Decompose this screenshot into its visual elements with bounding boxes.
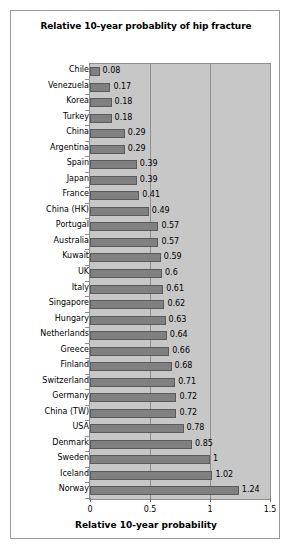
- bar[interactable]: [90, 424, 184, 433]
- bar-row: 0.29: [90, 126, 270, 142]
- bar[interactable]: [90, 222, 158, 231]
- bar-row: 0.18: [90, 95, 270, 111]
- bar-row: 0.78: [90, 421, 270, 437]
- bar[interactable]: [90, 160, 137, 169]
- bar[interactable]: [90, 145, 125, 154]
- category-label: Argentina: [17, 142, 89, 154]
- bar-value-label: 0.85: [195, 438, 213, 450]
- bar-row: 0.64: [90, 328, 270, 344]
- bar[interactable]: [90, 316, 166, 325]
- bar-row: 0.72: [90, 390, 270, 406]
- bar[interactable]: [90, 393, 176, 402]
- bar-row: 0.41: [90, 188, 270, 204]
- bar[interactable]: [90, 455, 210, 464]
- category-label: Portugal: [17, 219, 89, 231]
- bar-value-label: 0.18: [115, 96, 133, 108]
- bar-value-label: 0.17: [113, 81, 131, 93]
- bar-value-label: 0.72: [179, 391, 197, 403]
- bar-value-label: 0.6: [165, 267, 178, 279]
- bar-row: 0.63: [90, 313, 270, 329]
- bar[interactable]: [90, 347, 169, 356]
- bar-value-label: 1.24: [242, 484, 260, 496]
- x-tick-label: 0: [87, 504, 92, 515]
- bar[interactable]: [90, 285, 163, 294]
- category-label: Sweden: [17, 452, 89, 464]
- category-label: Turkey: [17, 111, 89, 123]
- bar[interactable]: [90, 238, 158, 247]
- category-label: China (HK): [17, 204, 89, 216]
- bar[interactable]: [90, 471, 212, 480]
- bar[interactable]: [90, 176, 137, 185]
- bar[interactable]: [90, 409, 176, 418]
- bar[interactable]: [90, 269, 162, 278]
- category-label: Italy: [17, 282, 89, 294]
- category-label: Finland: [17, 359, 89, 371]
- x-axis-tick-labels: 00.511.5: [89, 498, 271, 516]
- bar[interactable]: [90, 331, 167, 340]
- bar[interactable]: [90, 207, 149, 216]
- bar-row: 0.59: [90, 250, 270, 266]
- bar[interactable]: [90, 253, 161, 262]
- bar[interactable]: [90, 67, 100, 76]
- category-label: Chile: [17, 64, 89, 76]
- bar-value-label: 1: [213, 453, 218, 465]
- category-label: China: [17, 126, 89, 138]
- bar[interactable]: [90, 440, 192, 449]
- category-label: Hungary: [17, 313, 89, 325]
- bar-value-label: 0.59: [164, 251, 182, 263]
- category-label: Kuwait: [17, 250, 89, 262]
- chart-title: Relative 10-year probablity of hip fract…: [25, 20, 267, 32]
- bar-value-label: 0.64: [170, 329, 188, 341]
- bar-row: 0.57: [90, 219, 270, 235]
- bar[interactable]: [90, 300, 164, 309]
- bar-row: 1.02: [90, 468, 270, 484]
- bar-value-label: 0.68: [175, 360, 193, 372]
- bar-value-label: 0.57: [161, 220, 179, 232]
- category-label: China (TW): [17, 406, 89, 418]
- bar[interactable]: [90, 486, 239, 495]
- bar[interactable]: [90, 114, 112, 123]
- bar-row: 0.6: [90, 266, 270, 282]
- bar[interactable]: [90, 83, 110, 92]
- category-label: Iceland: [17, 468, 89, 480]
- x-tick-label: 0.5: [144, 504, 157, 515]
- bar-row: 0.62: [90, 297, 270, 313]
- bar[interactable]: [90, 129, 125, 138]
- bar-value-label: 0.63: [169, 314, 187, 326]
- bar[interactable]: [90, 378, 175, 387]
- category-label: Australia: [17, 235, 89, 247]
- chart-frame: Relative 10-year probablity of hip fract…: [10, 10, 280, 539]
- bar-value-label: 0.29: [128, 127, 146, 139]
- bar[interactable]: [90, 191, 139, 200]
- category-label: Spain: [17, 157, 89, 169]
- bar-row: 0.68: [90, 359, 270, 375]
- bar-row: 1: [90, 452, 270, 468]
- bar-row: 0.71: [90, 375, 270, 391]
- category-label: USA: [17, 421, 89, 433]
- bar-value-label: 0.61: [166, 283, 184, 295]
- category-label: Denmark: [17, 437, 89, 449]
- category-label: France: [17, 188, 89, 200]
- bar-row: 0.85: [90, 437, 270, 453]
- category-label: UK: [17, 266, 89, 278]
- category-label: Korea: [17, 95, 89, 107]
- category-label: Germany: [17, 390, 89, 402]
- x-tick-label: 1: [207, 504, 212, 515]
- category-label: Venezuela: [17, 80, 89, 92]
- category-axis: ChileVenezuelaKoreaTurkeyChinaArgentinaS…: [11, 63, 89, 498]
- bar[interactable]: [90, 98, 112, 107]
- bar-value-label: 0.41: [142, 189, 160, 201]
- bar-value-label: 0.08: [103, 65, 121, 77]
- category-label: Greece: [17, 344, 89, 356]
- bar-value-label: 0.49: [152, 205, 170, 217]
- bar-row: 0.39: [90, 157, 270, 173]
- bar-value-label: 0.78: [187, 422, 205, 434]
- bar-row: 0.57: [90, 235, 270, 251]
- bar[interactable]: [90, 362, 172, 371]
- category-label: Norway: [17, 483, 89, 495]
- x-axis-title: Relative 10-year probability: [25, 519, 267, 531]
- bar-value-label: 0.71: [178, 376, 196, 388]
- category-label: Netherlands: [17, 328, 89, 340]
- bar-value-label: 0.39: [140, 158, 158, 170]
- bar-row: 0.66: [90, 344, 270, 360]
